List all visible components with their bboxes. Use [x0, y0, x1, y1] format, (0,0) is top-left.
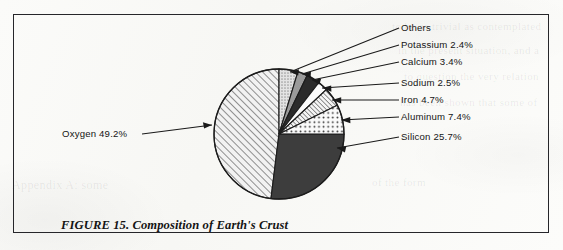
callout-label-oxygen: Oxygen 49.2% — [62, 129, 127, 139]
arrowhead-oxygen — [203, 122, 212, 128]
leader-line-sodium — [322, 83, 399, 88]
callout-label-calcium: Calcium 3.4% — [401, 57, 463, 67]
callout-label-potassium: Potassium 2.4% — [401, 40, 473, 50]
figure-frame: Others Potassium 2.4% Calcium 3.4% Sodiu… — [13, 14, 549, 233]
leader-line-potassium — [302, 45, 399, 74]
figure-caption: FIGURE 15. Composition of Earth's Crust — [61, 218, 288, 233]
pie-slice-silicon[interactable] — [271, 134, 344, 199]
pie-slice-oxygen[interactable] — [214, 69, 279, 199]
callout-label-silicon: Silicon 25.7% — [401, 132, 462, 142]
callout-label-sodium: Sodium 2.5% — [401, 78, 460, 88]
callout-label-iron: Iron 4.7% — [401, 95, 444, 105]
callout-label-others: Others — [401, 23, 431, 33]
callout-label-aluminum: Aluminum 7.4% — [401, 112, 471, 122]
leader-line-oxygen — [142, 125, 212, 134]
leader-line-calcium — [312, 62, 399, 80]
